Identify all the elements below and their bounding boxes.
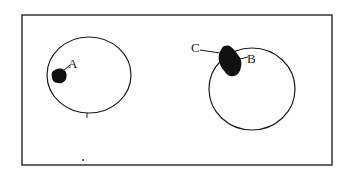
diagram-canvas: A C B — [0, 0, 354, 179]
blob-a — [52, 69, 67, 84]
label-a: A — [68, 56, 78, 71]
outer-frame — [22, 15, 332, 165]
leader-c — [200, 50, 220, 53]
stray-dot — [82, 159, 84, 161]
label-c: C — [191, 40, 200, 55]
label-b: B — [247, 51, 256, 66]
